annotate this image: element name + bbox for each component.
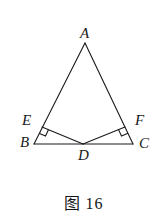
- vertex-label-F: F: [135, 113, 144, 128]
- vertex-label-E: E: [22, 113, 31, 128]
- geometry-figure: A B C D E F 图 16: [0, 0, 167, 217]
- figure-caption: 图 16: [0, 190, 167, 214]
- figure-caption-text: 图 16: [64, 195, 104, 212]
- vertex-label-C: C: [139, 136, 149, 151]
- segments-group: [34, 43, 133, 144]
- vertex-label-D: D: [78, 148, 89, 163]
- segment-AC: [85, 43, 133, 144]
- vertex-label-B: B: [20, 135, 29, 150]
- segment-AB: [34, 43, 85, 144]
- vertex-label-A: A: [80, 26, 89, 41]
- right-angle-marks-group: [39, 130, 128, 136]
